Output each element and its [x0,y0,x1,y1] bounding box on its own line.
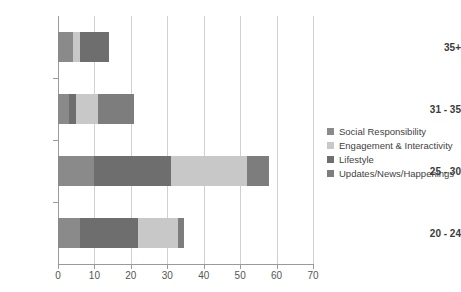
bar-segment[interactable] [94,156,171,186]
x-tick-10 [94,264,95,269]
y-tick-2 [53,140,58,141]
x-tick-label-30: 30 [162,270,173,281]
legend-swatch-icon [327,142,334,149]
legend-item[interactable]: Engagement & Interactivity [327,139,459,152]
bar-segment[interactable] [73,32,80,62]
legend-label: Engagement & Interactivity [339,139,453,152]
legend-item[interactable]: Lifestyle [327,153,459,166]
bar-row [0,32,461,62]
x-tick-label-20: 20 [125,270,136,281]
bar-row [0,94,461,124]
bar-segment[interactable] [98,94,134,124]
x-tick-70 [313,264,314,269]
bar-segment[interactable] [80,32,109,62]
chart-legend: Social ResponsibilityEngagement & Intera… [327,125,459,181]
legend-item[interactable]: Updates/News/Happenings [327,167,459,180]
bar-segment[interactable] [247,156,269,186]
bar-segment[interactable] [58,32,73,62]
y-tick-3 [53,202,58,203]
legend-swatch-icon [327,128,334,135]
x-tick-label-60: 60 [271,270,282,281]
bar-segment[interactable] [58,156,94,186]
legend-swatch-icon [327,156,334,163]
bar-segment[interactable] [138,218,178,248]
x-tick-label-50: 50 [235,270,246,281]
x-tick-label-40: 40 [198,270,209,281]
x-tick-60 [277,264,278,269]
bar-segment[interactable] [58,94,69,124]
x-tick-label-70: 70 [307,270,318,281]
bar-segment[interactable] [69,94,76,124]
x-tick-label-0: 0 [55,270,61,281]
bar-segment[interactable] [58,218,80,248]
legend-item[interactable]: Social Responsibility [327,125,459,138]
x-tick-label-10: 10 [89,270,100,281]
bar-segment[interactable] [76,94,98,124]
bar-segment[interactable] [80,218,138,248]
x-tick-30 [167,264,168,269]
legend-label: Updates/News/Happenings [339,167,454,180]
bar-row [0,218,461,248]
legend-label: Social Responsibility [339,125,426,138]
bar-segment[interactable] [171,156,248,186]
legend-label: Lifestyle [339,153,374,166]
x-tick-50 [240,264,241,269]
bar-segment[interactable] [178,218,183,248]
x-tick-20 [131,264,132,269]
x-tick-40 [204,264,205,269]
x-tick-0 [58,264,59,269]
stacked-bar-chart: 010203040506070 35+31 - 3525 - 3020 - 24… [0,0,461,292]
x-axis-line [58,264,313,265]
legend-swatch-icon [327,170,334,177]
y-tick-1 [53,78,58,79]
